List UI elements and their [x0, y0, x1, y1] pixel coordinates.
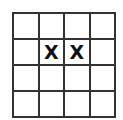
cell-r4-c2[interactable] — [40, 92, 66, 118]
cell-r2-c3[interactable]: X — [65, 40, 91, 66]
cell-r2-c4[interactable] — [91, 40, 117, 66]
cell-r3-c3[interactable] — [65, 66, 91, 92]
cell-r1-c1[interactable] — [14, 14, 40, 40]
cell-r1-c2[interactable] — [40, 14, 66, 40]
cell-r2-c2[interactable]: X — [40, 40, 66, 66]
game-grid: X X — [12, 12, 116, 118]
cell-r1-c3[interactable] — [65, 14, 91, 40]
cell-r4-c3[interactable] — [65, 92, 91, 118]
cell-r4-c4[interactable] — [91, 92, 117, 118]
cell-r3-c1[interactable] — [14, 66, 40, 92]
cell-r1-c4[interactable] — [91, 14, 117, 40]
cell-r2-c1[interactable] — [14, 40, 40, 66]
cell-r3-c4[interactable] — [91, 66, 117, 92]
cell-r3-c2[interactable] — [40, 66, 66, 92]
cell-r4-c1[interactable] — [14, 92, 40, 118]
